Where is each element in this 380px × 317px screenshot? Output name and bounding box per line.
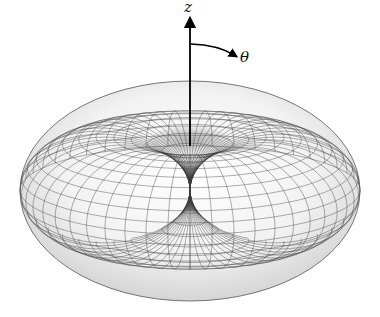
torus-diagram <box>0 0 380 317</box>
z-axis-label: z <box>184 0 192 16</box>
theta-label: θ <box>240 48 249 66</box>
theta-arrow <box>191 44 234 55</box>
radiation-pattern-figure: z θ <box>0 0 380 317</box>
